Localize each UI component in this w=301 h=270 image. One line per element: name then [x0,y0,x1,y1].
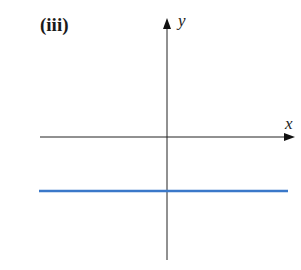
panel-label: (iii) [40,14,69,36]
x-axis-label: x [285,114,293,134]
y-axis-label: y [178,11,186,31]
x-axis-arrow-icon [284,133,295,141]
axes-svg [0,0,301,270]
y-axis-arrow-icon [163,18,171,29]
graph-figure: (iii) x y [0,0,301,270]
